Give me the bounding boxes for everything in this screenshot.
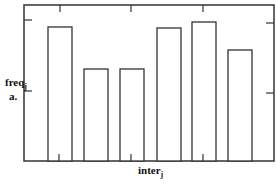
x-axis-label-subscript: j [161,170,164,179]
panel-label-text: a. [9,90,17,102]
y-axis-label-text: freq [5,76,24,88]
bar [192,22,216,161]
x-axis-label: interj [138,164,163,179]
x-axis-label-text: inter [138,164,161,176]
y-axis-label: freqj [5,76,27,91]
y-axis-label-subscript: j [24,82,27,91]
bar-chart [0,0,276,188]
bar [228,50,252,161]
panel-label: a. [9,90,17,102]
bar [120,69,144,161]
bar [157,28,181,161]
bar [48,27,72,161]
bar [84,69,108,161]
